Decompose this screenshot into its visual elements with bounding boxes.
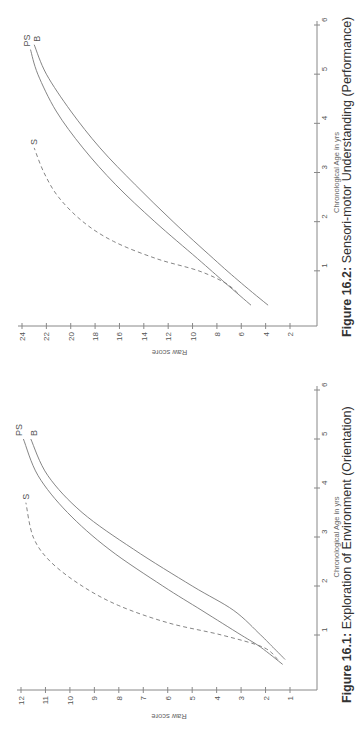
age-tick-label: 4 xyxy=(320,115,329,120)
age-tick-label: 3 xyxy=(320,165,329,170)
series-line-ps xyxy=(23,439,282,664)
figure-caption: Figure 16.2: Sensori-motor Understanding… xyxy=(340,17,354,337)
caption-text: Exploration of Environment (Orientation) xyxy=(340,406,354,629)
series-label-ps: PS xyxy=(14,424,24,436)
series-line-s xyxy=(26,503,278,660)
score-tick-label: 16 xyxy=(115,331,124,340)
series-label-b: B xyxy=(32,36,42,42)
age-tick-label: 5 xyxy=(320,431,329,436)
series-label-s: S xyxy=(21,494,31,500)
score-tick-label: 8 xyxy=(213,331,222,336)
y-axis-title: Raw score xyxy=(151,712,186,721)
series-line-b xyxy=(31,439,285,660)
figure-16-1: 123456123456789101112Chronological Age i… xyxy=(0,368,364,728)
age-tick-label: 2 xyxy=(320,214,329,219)
score-tick-label: 10 xyxy=(189,331,198,340)
series-line-ps xyxy=(31,50,252,306)
caption-number: Figure 16.2: xyxy=(340,267,354,337)
score-tick-label: 4 xyxy=(262,331,271,336)
score-tick-label: 9 xyxy=(90,695,99,700)
series-label-ps: PS xyxy=(22,35,32,47)
score-tick-label: 11 xyxy=(41,695,50,704)
chart-16-2-svg: 12345624681012141618202224Chronological … xyxy=(0,0,364,362)
score-tick-label: 1 xyxy=(286,695,295,700)
score-tick-label: 22 xyxy=(42,331,51,340)
score-tick-label: 20 xyxy=(67,331,76,340)
score-tick-label: 4 xyxy=(213,695,222,700)
score-tick-label: 24 xyxy=(18,331,27,340)
score-tick-label: 6 xyxy=(164,695,173,700)
series-label-s: S xyxy=(29,139,39,145)
figure-16-2: 12345624681012141618202224Chronological … xyxy=(0,2,364,362)
score-tick-label: 5 xyxy=(188,695,197,700)
score-tick-label: 10 xyxy=(66,695,75,704)
score-tick-label: 12 xyxy=(164,331,173,340)
score-tick-label: 18 xyxy=(91,331,100,340)
age-tick-label: 2 xyxy=(320,578,329,583)
caption-text: Sensori-motor Understanding (Performance… xyxy=(340,17,354,264)
score-tick-label: 12 xyxy=(17,695,26,704)
age-tick-label: 1 xyxy=(320,627,329,632)
caption-number: Figure 16.1: xyxy=(340,633,354,703)
age-tick-label: 5 xyxy=(320,66,329,71)
score-tick-label: 2 xyxy=(262,695,271,700)
age-tick-label: 1 xyxy=(320,263,329,268)
age-tick-label: 6 xyxy=(320,17,329,22)
y-axis-title: Raw score xyxy=(152,348,187,357)
age-tick-label: 3 xyxy=(320,529,329,534)
score-tick-label: 2 xyxy=(286,331,295,336)
chart-16-1-svg: 123456123456789101112Chronological Age i… xyxy=(0,366,364,728)
age-tick-label: 6 xyxy=(320,382,329,387)
score-tick-label: 7 xyxy=(139,695,148,700)
plot-area: 12345624681012141618202224Chronological … xyxy=(18,17,341,357)
score-tick-label: 14 xyxy=(140,331,149,340)
series-line-b xyxy=(34,45,268,306)
age-tick-label: 4 xyxy=(320,480,329,485)
plot-area: 123456123456789101112Chronological Age i… xyxy=(14,382,341,721)
score-tick-label: 3 xyxy=(237,695,246,700)
series-line-s xyxy=(34,148,237,293)
figure-caption: Figure 16.1: Exploration of Environment … xyxy=(340,406,354,703)
score-tick-label: 6 xyxy=(237,331,246,336)
series-label-b: B xyxy=(29,430,39,436)
score-tick-label: 8 xyxy=(115,695,124,700)
